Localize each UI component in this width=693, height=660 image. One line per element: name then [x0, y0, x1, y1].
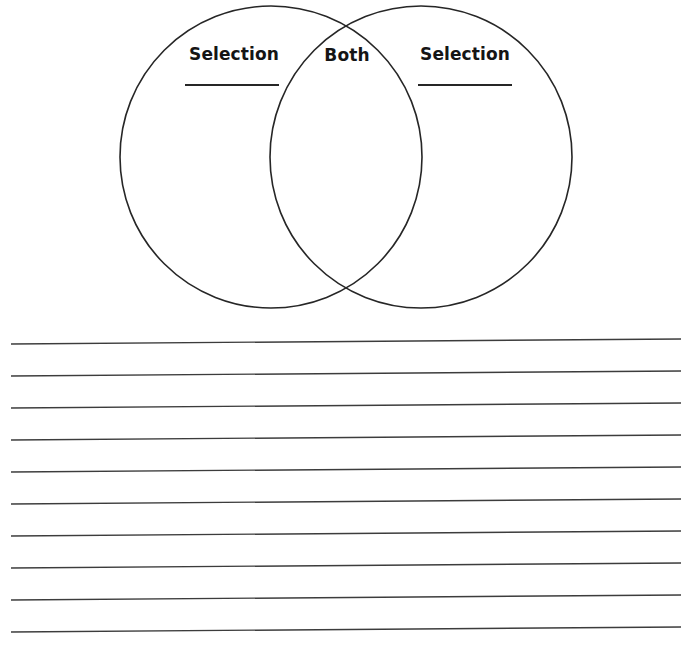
ruled-lines-graphic	[0, 325, 693, 660]
writing-line[interactable]	[11, 563, 681, 568]
writing-line[interactable]	[11, 403, 681, 408]
writing-line[interactable]	[11, 627, 681, 632]
venn-label-left: Selection	[186, 44, 282, 64]
writing-line[interactable]	[11, 339, 681, 344]
writing-line[interactable]	[11, 371, 681, 376]
venn-write-on-line-right[interactable]	[418, 84, 512, 86]
writing-line[interactable]	[11, 435, 681, 440]
writing-line[interactable]	[11, 531, 681, 536]
writing-lines-area	[0, 325, 693, 660]
writing-line[interactable]	[11, 467, 681, 472]
venn-label-both: Both	[322, 45, 372, 65]
venn-diagram-worksheet: Selection Both Selection	[0, 0, 693, 660]
venn-label-right: Selection	[417, 44, 513, 64]
venn-diagram: Selection Both Selection	[0, 0, 693, 325]
writing-line[interactable]	[11, 499, 681, 504]
venn-write-on-line-left[interactable]	[185, 84, 279, 86]
writing-line[interactable]	[11, 595, 681, 600]
